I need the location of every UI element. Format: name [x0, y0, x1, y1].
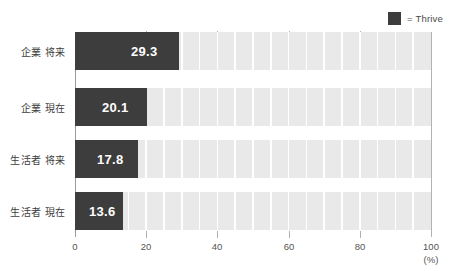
track-segment-divider: [270, 88, 272, 126]
track-segment-divider: [359, 32, 361, 70]
bar-value-3: 13.6: [89, 204, 116, 219]
track-segment-divider: [359, 192, 361, 230]
track-segment-divider: [270, 140, 272, 178]
right-axis-line: [431, 32, 432, 237]
track-segment-divider: [412, 140, 414, 178]
track-segment-divider: [412, 32, 414, 70]
x-tick-label-100: 100: [423, 241, 439, 252]
track-segment-divider: [163, 88, 165, 126]
tick-bottom-80: [360, 231, 361, 238]
track-segment-divider: [341, 88, 343, 126]
track-segment-divider: [145, 192, 147, 230]
tick-bottom-60: [289, 231, 290, 238]
track-segment-divider: [252, 32, 254, 70]
category-label-3: 生活者 現在: [10, 192, 66, 230]
chart-legend: = Thrive: [388, 11, 443, 25]
track-segment-divider: [395, 32, 397, 70]
track-segment-divider: [377, 32, 379, 70]
x-tick-label-20: 20: [141, 241, 152, 252]
track-segment-divider: [288, 88, 290, 126]
bar-chart: = Thrive 企業 将来 企業 現在 生活者 将来 生活者 現在 29.3 …: [0, 0, 455, 271]
track-segment-divider: [128, 192, 130, 230]
track-segment-divider: [181, 192, 183, 230]
track-segment-divider: [199, 192, 201, 230]
category-label-0: 企業 将来: [21, 32, 66, 70]
track-segment-divider: [217, 140, 219, 178]
tick-bottom-20: [146, 231, 147, 238]
track-segment-divider: [270, 32, 272, 70]
track-segment-divider: [306, 140, 308, 178]
track-segment-divider: [270, 192, 272, 230]
track-segment-divider: [377, 192, 379, 230]
track-segment-divider: [306, 192, 308, 230]
track-segment-divider: [181, 140, 183, 178]
x-axis-unit-label: (%): [424, 254, 439, 265]
track-segment-divider: [412, 88, 414, 126]
track-segment-divider: [395, 140, 397, 178]
track-segment-divider: [288, 140, 290, 178]
bar-value-1: 20.1: [102, 100, 129, 115]
track-segment-divider: [199, 32, 201, 70]
track-segment-divider: [234, 192, 236, 230]
track-segment-divider: [163, 140, 165, 178]
plot-area: 29.3 20.1 17.8 13.6: [75, 32, 431, 237]
category-label-1: 企業 現在: [21, 88, 66, 126]
track-segment-divider: [252, 192, 254, 230]
track-segment-divider: [181, 32, 183, 70]
track-segment-divider: [252, 88, 254, 126]
track-segment-divider: [234, 88, 236, 126]
track-segment-divider: [306, 88, 308, 126]
track-segment-divider: [323, 88, 325, 126]
bar-fill-0: [75, 32, 179, 70]
legend-swatch-thrive: [388, 12, 401, 25]
x-tick-label-40: 40: [212, 241, 223, 252]
track-segment-divider: [199, 140, 201, 178]
track-segment-divider: [412, 192, 414, 230]
track-segment-divider: [323, 192, 325, 230]
bar-track-3: [75, 192, 431, 230]
track-segment-divider: [341, 140, 343, 178]
track-segment-divider: [395, 88, 397, 126]
track-segment-divider: [359, 140, 361, 178]
track-segment-divider: [288, 192, 290, 230]
bar-value-0: 29.3: [131, 44, 158, 59]
track-segment-divider: [377, 88, 379, 126]
track-segment-divider: [323, 140, 325, 178]
track-segment-divider: [341, 32, 343, 70]
track-segment-divider: [217, 192, 219, 230]
track-segment-divider: [163, 192, 165, 230]
track-segment-divider: [145, 140, 147, 178]
x-tick-label-60: 60: [284, 241, 295, 252]
track-segment-divider: [217, 32, 219, 70]
track-segment-divider: [377, 140, 379, 178]
category-label-2: 生活者 将来: [10, 140, 66, 178]
track-segment-divider: [341, 192, 343, 230]
tick-bottom-40: [217, 231, 218, 238]
track-segment-divider: [306, 32, 308, 70]
track-segment-divider: [359, 88, 361, 126]
track-segment-divider: [288, 32, 290, 70]
track-segment-divider: [395, 192, 397, 230]
track-segment-divider: [217, 88, 219, 126]
legend-label-thrive: = Thrive: [407, 13, 443, 24]
x-tick-label-80: 80: [355, 241, 366, 252]
track-segment-divider: [323, 32, 325, 70]
track-segment-divider: [234, 32, 236, 70]
track-segment-divider: [199, 88, 201, 126]
x-tick-label-0: 0: [72, 241, 77, 252]
track-segment-divider: [252, 140, 254, 178]
bar-value-2: 17.8: [97, 152, 124, 167]
track-segment-divider: [234, 140, 236, 178]
track-segment-divider: [181, 88, 183, 126]
